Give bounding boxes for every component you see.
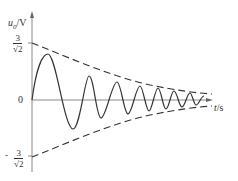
chart-plot [0, 0, 238, 181]
y-tick-top-denominator: √2 [13, 44, 22, 54]
y-axis-label-unit: /V [17, 17, 27, 28]
x-axis-label: t/s [214, 103, 223, 113]
y-tick-top-numerator: 3 [13, 34, 22, 44]
y-tick-bottom-denominator: √2 [14, 159, 23, 169]
y-axis-label: u0/V [8, 18, 27, 31]
origin-label: 0 [18, 95, 23, 105]
y-axis-arrow-icon [30, 11, 34, 18]
lower-envelope [32, 106, 212, 157]
y-tick-label-top: 3 √2 [13, 34, 22, 54]
y-tick-bottom-sign: - [5, 150, 8, 160]
x-axis-label-unit: /s [217, 102, 224, 113]
oscillation-curve [32, 54, 204, 129]
y-tick-bottom-numerator: 3 [14, 149, 23, 159]
x-axis-arrow-icon [206, 98, 213, 102]
y-tick-label-bottom: 3 √2 [14, 149, 23, 169]
